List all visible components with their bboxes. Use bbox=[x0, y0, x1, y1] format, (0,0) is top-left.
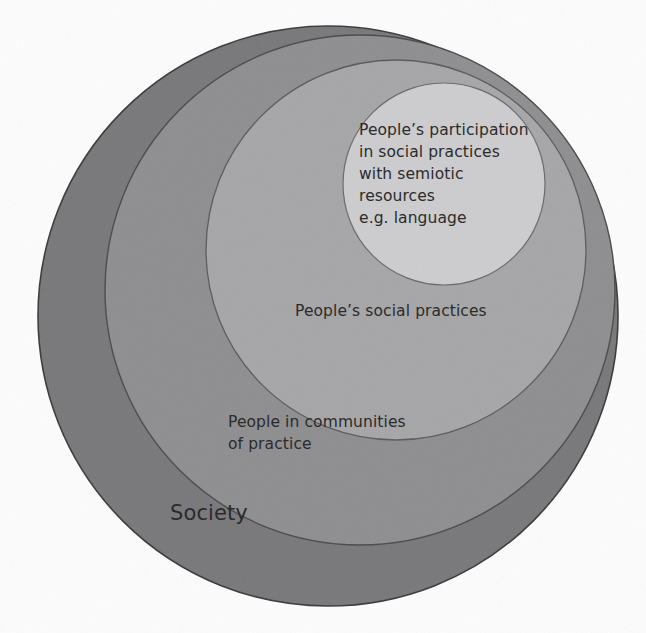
label-society: Society bbox=[170, 500, 330, 528]
label-social-practices: People’s social practices bbox=[295, 301, 545, 322]
label-communities-of-practice: People in communities of practice bbox=[228, 411, 448, 456]
label-participation: People’s participation in social practic… bbox=[359, 119, 549, 229]
nested-circles-diagram: People’s participation in social practic… bbox=[0, 0, 646, 633]
